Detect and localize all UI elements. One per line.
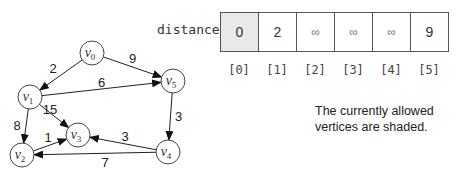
distance-array-indices: [0] [1] [2] [3] [4] [5] (220, 63, 448, 77)
index-label-1: [1] (258, 63, 296, 77)
vertex-v4: v4 (156, 140, 180, 164)
edge-v5-v4 (169, 93, 172, 140)
edge-weight-v0-v5: 9 (129, 51, 136, 66)
edge-v1-v2 (24, 109, 29, 143)
index-label-3: [3] (334, 63, 372, 77)
edge-weight-v4-v2: 7 (101, 155, 108, 170)
vertex-v0: v0 (80, 41, 104, 65)
vertex-v2: v2 (10, 143, 34, 167)
edge-weight-v1-v2: 8 (13, 118, 20, 133)
vertex-v1: v1 (18, 85, 42, 109)
index-label-2: [2] (296, 63, 334, 77)
vertex-v3: v3 (66, 123, 90, 147)
distance-array: 0 2 ∞ ∞ ∞ 9 (220, 12, 449, 52)
note-line-1: The currently allowed (315, 103, 434, 119)
distance-cell-1: 2 (259, 13, 297, 51)
distance-cell-2: ∞ (297, 13, 335, 51)
distance-cell-4: ∞ (373, 13, 411, 51)
edge-weight-v0-v1: 2 (49, 61, 56, 76)
distance-cell-5: 9 (411, 13, 448, 51)
edge-weight-v1-v3: 15 (43, 102, 57, 117)
note-line-2: vertices are shaded. (315, 119, 434, 135)
distance-cell-0: 0 (221, 13, 259, 51)
edge-weight-v5-v4: 3 (175, 109, 182, 124)
distance-cell-3: ∞ (335, 13, 373, 51)
distance-array-label: distance (157, 22, 220, 37)
edge-v0-v1 (40, 60, 82, 90)
edge-weight-v4-v3: 3 (121, 129, 128, 144)
edge-v4-v2 (34, 152, 156, 155)
shading-note: The currently allowed vertices are shade… (315, 103, 434, 135)
vertex-v5: v5 (161, 69, 185, 93)
index-label-5: [5] (410, 63, 448, 77)
index-label-0: [0] (220, 63, 258, 77)
edge-weight-v2-v3: 1 (44, 130, 51, 145)
edge-weight-v1-v5: 6 (98, 75, 105, 90)
index-label-4: [4] (372, 63, 410, 77)
